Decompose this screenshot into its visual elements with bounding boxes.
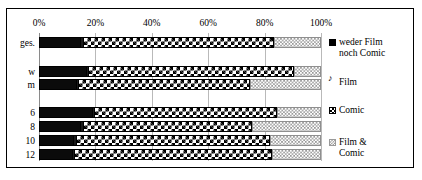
legend-item-comic[interactable]: Comic xyxy=(329,105,413,116)
bar-segment xyxy=(39,107,93,118)
x-tick-label: 100% xyxy=(310,17,332,29)
bar-segment xyxy=(94,107,277,118)
x-tick-label: 40% xyxy=(143,17,160,29)
bar-segment xyxy=(39,121,81,132)
bar-segment xyxy=(39,135,74,146)
legend-swatch-icon xyxy=(329,39,336,46)
category-label-10: 10 xyxy=(26,136,36,146)
legend-swatch-icon xyxy=(329,139,336,146)
x-tick-label: 60% xyxy=(199,17,216,29)
category-label-8: 8 xyxy=(30,122,35,132)
bar-segment xyxy=(294,66,321,77)
bar-segment xyxy=(76,135,271,146)
legend-item-weder-film-noch-comic[interactable]: weder Film noch Comic xyxy=(329,37,413,59)
legend-item-film[interactable]: Film xyxy=(329,77,413,88)
plot-area xyxy=(39,33,321,161)
chart-frame: 0%20%40%60%80%100% ges.wm681012 weder Fi… xyxy=(6,8,414,168)
x-axis-tick-labels: 0%20%40%60%80%100% xyxy=(39,17,321,31)
x-tick-label: 80% xyxy=(256,17,273,29)
bar-segment xyxy=(88,66,294,77)
category-label-6: 6 xyxy=(30,108,35,118)
legend-label: Film & Comic xyxy=(339,137,367,159)
bar-segment xyxy=(83,37,275,48)
chart-legend: weder Film noch ComicFilmComicFilm & Com… xyxy=(329,33,413,163)
bar-row xyxy=(39,107,321,118)
bar-segment xyxy=(74,149,271,160)
legend-label: Film xyxy=(339,77,357,88)
x-tick-label: 20% xyxy=(87,17,104,29)
bar-segment xyxy=(270,135,321,146)
bar-segment xyxy=(252,121,321,132)
bar-row xyxy=(39,79,321,90)
bar-row xyxy=(39,149,321,160)
category-label-ges: ges. xyxy=(20,38,35,48)
bar-segment xyxy=(277,107,321,118)
x-tick-label: 0% xyxy=(33,17,46,29)
bar-segment xyxy=(39,66,87,77)
bar-row xyxy=(39,121,321,132)
bar-segment xyxy=(78,79,250,90)
category-label-12: 12 xyxy=(26,150,36,160)
bar-segment xyxy=(39,79,77,90)
bar-segment xyxy=(274,37,321,48)
bar-segment xyxy=(250,79,321,90)
bar-row xyxy=(39,66,321,77)
category-label-w: w xyxy=(28,67,35,77)
legend-label: weder Film noch Comic xyxy=(339,37,385,59)
y-axis-category-labels: ges.wm681012 xyxy=(7,33,37,161)
bar-segment xyxy=(39,149,73,160)
legend-item-film-comic[interactable]: Film & Comic xyxy=(329,137,413,159)
bar-row xyxy=(39,135,321,146)
legend-swatch-icon xyxy=(329,79,336,86)
bar-segment xyxy=(272,149,321,160)
gridline-100pct xyxy=(321,33,322,161)
legend-swatch-icon xyxy=(329,107,336,114)
category-label-m: m xyxy=(28,80,35,90)
bar-row xyxy=(39,37,321,48)
legend-label: Comic xyxy=(339,105,364,116)
bar-segment xyxy=(39,37,81,48)
bar-segment xyxy=(83,121,252,132)
